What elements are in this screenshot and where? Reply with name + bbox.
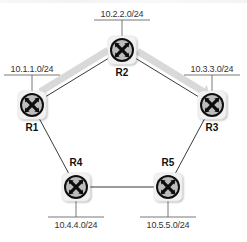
router-r5[interactable]: [154, 173, 182, 201]
router-r2[interactable]: [108, 36, 136, 64]
router-label-r3: R3: [206, 123, 219, 133]
routers: [18, 36, 226, 201]
router-icon: [198, 91, 226, 119]
network-diagram: 10.1.1.0/24R110.2.2.0/24R210.3.3.0/24R31…: [0, 0, 247, 242]
router-icon: [154, 173, 182, 201]
router-icon: [18, 91, 46, 119]
router-r3[interactable]: [198, 91, 226, 119]
diagram-canvas: [0, 0, 247, 242]
router-icon: [108, 36, 136, 64]
router-icon: [62, 173, 90, 201]
subnet-label-r1: 10.1.1.0/24: [11, 64, 54, 74]
subnet-label-r4: 10.4.4.0/24: [55, 220, 98, 230]
router-r1[interactable]: [18, 91, 46, 119]
subnet-label-r2: 10.2.2.0/24: [101, 9, 144, 19]
router-label-r4: R4: [70, 158, 83, 168]
router-label-r1: R1: [26, 123, 39, 133]
router-label-r2: R2: [116, 68, 129, 78]
router-r4[interactable]: [62, 173, 90, 201]
subnet-label-r3: 10.3.3.0/24: [191, 64, 234, 74]
router-label-r5: R5: [162, 158, 175, 168]
subnet-label-r5: 10.5.5.0/24: [147, 220, 190, 230]
